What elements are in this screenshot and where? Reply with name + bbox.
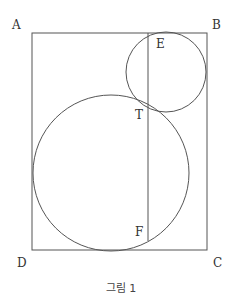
label-B: B <box>212 18 221 32</box>
label-F: F <box>135 225 143 239</box>
rectangle-ABCD <box>32 33 207 250</box>
label-D: D <box>17 256 27 270</box>
label-A: A <box>11 18 21 32</box>
geometry-figure: A B D C E T F 그림 1 <box>0 0 238 306</box>
label-E: E <box>156 37 165 51</box>
figure-caption: 그림 1 <box>106 282 137 295</box>
large-circle <box>33 95 189 251</box>
label-T: T <box>135 108 143 122</box>
label-C: C <box>213 256 222 270</box>
